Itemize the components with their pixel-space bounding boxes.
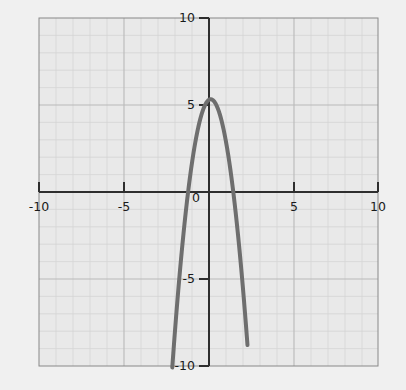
- x-tick-label-10: 10: [370, 199, 386, 214]
- x-tick-label-5: 5: [290, 199, 298, 214]
- y-tick-label-neg5: -5: [183, 271, 195, 286]
- origin-label: 0: [192, 190, 200, 205]
- x-tick-label-neg10: -10: [29, 199, 49, 214]
- y-tick-label-5: 5: [187, 97, 195, 112]
- y-tick-label-10: 10: [179, 10, 195, 25]
- y-tick-label-neg10: -10: [175, 358, 195, 373]
- x-tick-label-neg5: -5: [118, 199, 130, 214]
- parabola-plot-svg: -10 -5 0 5 10 10 5 -5 -10: [0, 0, 406, 390]
- chart-figure: -10 -5 0 5 10 10 5 -5 -10: [0, 0, 406, 390]
